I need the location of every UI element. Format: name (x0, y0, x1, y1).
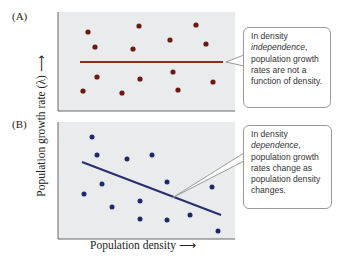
callout-a-text: population growth rates are not a functi… (251, 54, 322, 87)
callout-b-text: population growth rates change as popula… (251, 152, 320, 196)
callout-a-line1: In density (251, 31, 288, 41)
callout-b: In density dependence, population growth… (243, 125, 332, 209)
callout-a-term: independence (251, 42, 305, 52)
plot-b (58, 122, 244, 239)
callout-b-term: dependence (251, 140, 298, 150)
callout-b-comma: , (298, 140, 300, 150)
callout-a-comma: , (305, 42, 307, 52)
callout-b-line1: In density (251, 129, 288, 139)
plot-a (58, 12, 244, 111)
callout-a: In density independence, population grow… (243, 27, 331, 108)
